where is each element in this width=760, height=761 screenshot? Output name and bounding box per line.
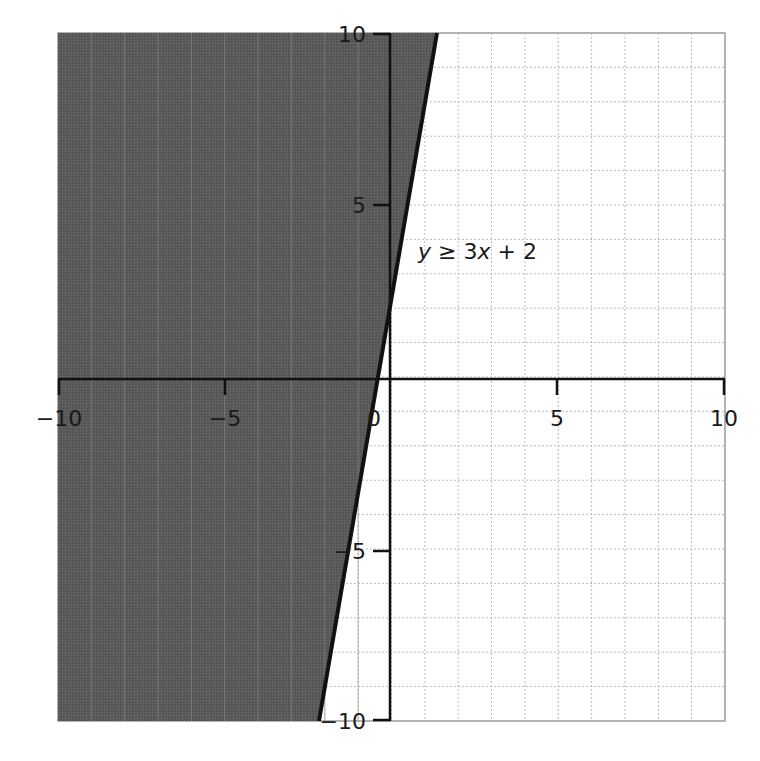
- x-tick-label-0: 0: [367, 406, 381, 431]
- inequality-label: y ≥ 3x + 2: [417, 239, 537, 264]
- inequality-graph: −10 −5 0 5 10 10 5 −5 −10 y ≥ 3x + 2: [0, 0, 760, 761]
- y-tick-label-neg10: −10: [320, 709, 366, 734]
- ineq-y: y: [417, 239, 432, 264]
- x-tick-label-10: 10: [710, 406, 738, 431]
- x-tick-label-neg5: −5: [209, 406, 241, 431]
- ineq-x: x: [476, 239, 491, 264]
- ineq-end: + 2: [490, 239, 536, 264]
- y-tick-label-10: 10: [338, 22, 366, 47]
- ineq-mid: ≥ 3: [431, 239, 477, 264]
- y-tick-label-neg5: −5: [334, 539, 366, 564]
- y-tick-label-5: 5: [352, 193, 366, 218]
- x-tick-label-5: 5: [550, 406, 564, 431]
- x-tick-label-neg10: −10: [36, 406, 82, 431]
